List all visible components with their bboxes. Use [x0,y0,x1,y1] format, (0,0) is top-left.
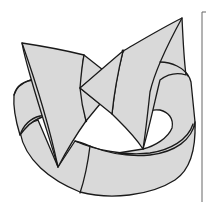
band-front-bottom [20,120,195,196]
fold-point-top [122,50,125,53]
folded-ribbon-illustration [0,0,207,209]
fold-point-bottom [85,120,87,122]
figure-canvas [0,0,207,209]
frame-border-line [202,12,206,202]
